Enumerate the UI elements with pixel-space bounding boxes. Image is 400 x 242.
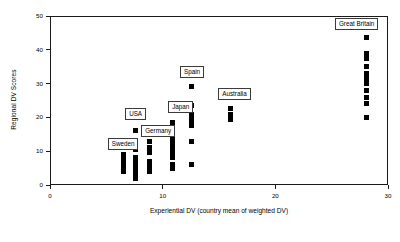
country-label-germany: Germany [141, 125, 175, 137]
x-tick-mark [275, 185, 276, 189]
x-tick-label: 0 [40, 192, 60, 199]
y-tick-label: 20 [26, 113, 43, 120]
data-point [364, 95, 369, 100]
x-tick-label: 30 [378, 192, 398, 199]
data-point [364, 101, 369, 106]
x-tick-label: 20 [265, 192, 285, 199]
data-point [364, 35, 369, 40]
data-point [133, 128, 138, 133]
data-point [147, 139, 152, 144]
data-point [228, 106, 233, 111]
x-tick-label: 10 [153, 192, 173, 199]
country-label-spain: Spain [180, 66, 204, 78]
data-point [189, 123, 194, 128]
data-point [364, 81, 369, 86]
data-point [364, 64, 369, 69]
y-tick-mark [46, 49, 50, 50]
data-point [147, 159, 152, 164]
y-tick-mark [46, 151, 50, 152]
data-point [189, 139, 194, 144]
data-point [364, 76, 369, 81]
data-point [364, 115, 369, 120]
country-label-usa: USA [125, 108, 146, 120]
y-tick-label: 30 [26, 80, 43, 87]
y-tick-label: 0 [26, 181, 43, 188]
country-label-sweden: Sweden [108, 138, 139, 150]
y-tick-label: 10 [26, 147, 43, 154]
country-label-australia: Australia [218, 88, 251, 100]
data-point [189, 84, 194, 89]
y-tick-mark [46, 83, 50, 84]
data-point [189, 162, 194, 167]
data-point [147, 150, 152, 155]
x-axis-label: Experiential DV (country mean of weighte… [50, 207, 388, 214]
data-point [170, 162, 175, 167]
y-axis-label: Regional DV Scores [10, 64, 17, 134]
y-tick-mark [46, 16, 50, 17]
country-label-japan: Japan [168, 101, 193, 113]
x-tick-mark [388, 185, 389, 189]
data-point [364, 88, 369, 93]
plot-area [50, 16, 388, 185]
scatter-plot-figure: Regional DV Scores Experiential DV (coun… [0, 0, 400, 242]
data-point [121, 152, 126, 157]
x-tick-mark [50, 185, 51, 189]
data-point [364, 51, 369, 56]
data-point [364, 71, 369, 76]
data-point [364, 56, 369, 61]
x-tick-mark [162, 185, 163, 189]
y-tick-label: 40 [26, 46, 43, 53]
y-tick-label: 50 [26, 12, 43, 19]
country-label-great-britain: Great Britain [335, 18, 378, 30]
data-point [228, 112, 233, 117]
y-tick-mark [46, 117, 50, 118]
data-point [228, 117, 233, 122]
data-point [133, 155, 138, 160]
data-point [147, 145, 152, 150]
